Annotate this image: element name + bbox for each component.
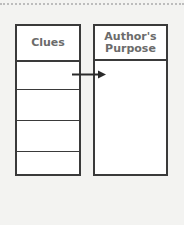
authors-purpose-column: Author's Purpose <box>93 24 168 176</box>
dotted-separator <box>0 3 184 5</box>
clues-row-1 <box>17 60 79 90</box>
clues-column: Clues <box>15 24 81 176</box>
arrow-right-icon <box>72 70 106 79</box>
clues-row-3 <box>17 120 79 152</box>
clues-header: Clues <box>17 26 79 62</box>
authors-purpose-title: Author's Purpose <box>95 31 166 55</box>
clues-title: Clues <box>31 37 65 49</box>
authors-purpose-header: Author's Purpose <box>95 26 166 61</box>
clues-row-2 <box>17 89 79 121</box>
